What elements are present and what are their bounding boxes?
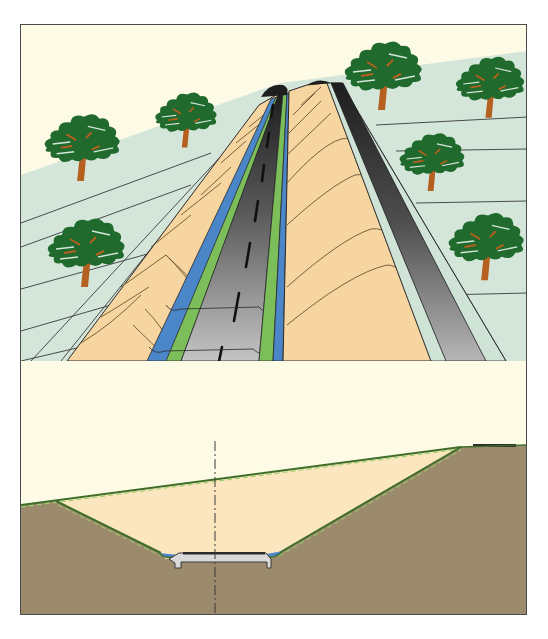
diagram-frame: [20, 24, 527, 615]
cross-section: [21, 361, 527, 615]
road-pavement: [183, 552, 265, 555]
perspective-view: [21, 25, 527, 371]
road-cutting-diagram: [21, 25, 527, 615]
